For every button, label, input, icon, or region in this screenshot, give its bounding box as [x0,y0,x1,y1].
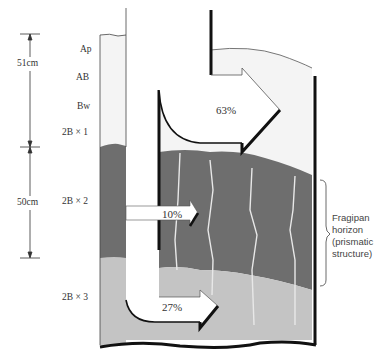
flow-label-10: 10% [162,208,182,220]
horizon-label-ab: AB [76,72,89,82]
horizon-label-2bx2: 2B × 2 [62,196,88,206]
flow-label-63: 63% [216,104,236,116]
depth-label-50cm: 50cm [17,197,38,207]
horizon-label-bw: Bw [77,101,90,111]
horizon-label-2bx1: 2B × 1 [62,127,88,137]
depth-label-51cm: 51cm [17,58,38,68]
annotation-line-4: structure) [332,248,373,260]
annotation-line-3: (prismatic [332,236,373,248]
horizon-label-ap: Ap [80,44,92,54]
fragipan-annotation: Fragipan horizon (prismatic structure) [332,212,373,260]
fragipan-brace [320,180,330,286]
horizon-label-2bx3: 2B × 3 [62,292,88,302]
annotation-line-2: horizon [332,224,373,236]
annotation-line-1: Fragipan [332,212,373,224]
flow-label-27: 27% [162,301,182,313]
soil-profile-diagram [0,0,387,363]
left-soil-column [100,8,126,345]
